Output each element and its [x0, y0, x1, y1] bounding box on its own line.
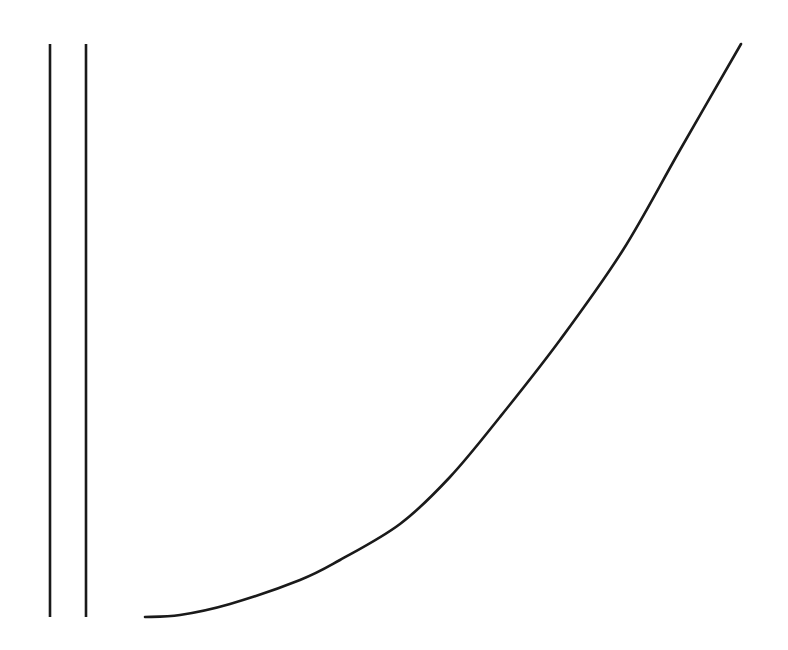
- rising-curve: [145, 44, 741, 617]
- vertical-lines: [50, 44, 86, 617]
- diagram-canvas: [0, 0, 788, 650]
